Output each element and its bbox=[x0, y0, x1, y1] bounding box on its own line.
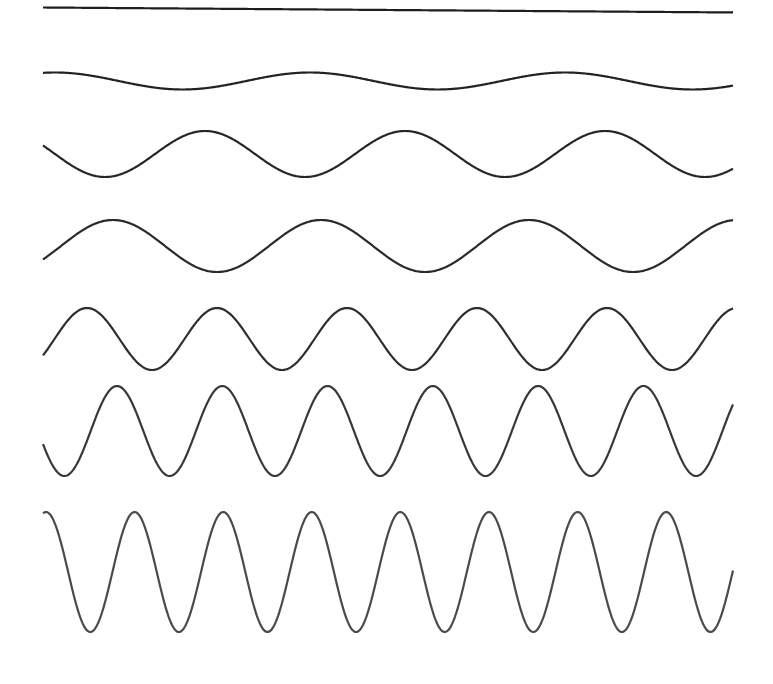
background bbox=[0, 0, 773, 684]
wave-diagram bbox=[0, 0, 773, 684]
wave-diagram-svg bbox=[0, 0, 773, 684]
